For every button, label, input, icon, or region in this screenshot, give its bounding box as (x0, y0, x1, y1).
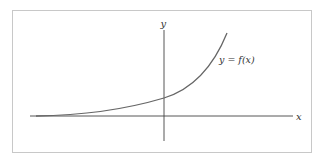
x-axis-label: x (296, 111, 302, 122)
curve-f-of-x (36, 33, 227, 116)
curve-label: y = f(x) (218, 54, 255, 65)
function-plot: y x y = f(x) (0, 0, 330, 159)
y-axis-label: y (160, 18, 167, 29)
